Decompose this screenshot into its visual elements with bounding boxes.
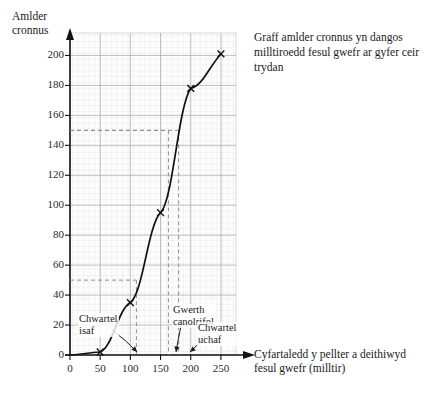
x-axis-arrow bbox=[243, 351, 255, 359]
x-tick-label: 150 bbox=[146, 362, 176, 374]
x-tick-label: 50 bbox=[85, 362, 115, 374]
x-tick-label: 0 bbox=[55, 362, 85, 374]
y-tick-label: 60 bbox=[20, 258, 64, 270]
chart-page: Amlder cronnus Graff amlder cronnus yn d… bbox=[0, 0, 428, 404]
y-tick-label: 140 bbox=[20, 138, 64, 150]
x-tick-label: 250 bbox=[206, 362, 236, 374]
y-tick-label: 180 bbox=[20, 78, 64, 90]
y-tick-label: 0 bbox=[20, 348, 64, 360]
y-tick-label: 160 bbox=[20, 108, 64, 120]
y-tick-label: 20 bbox=[20, 318, 64, 330]
y-tick-label: 80 bbox=[20, 228, 64, 240]
x-tick-label: 200 bbox=[176, 362, 206, 374]
y-tick-label: 200 bbox=[20, 48, 64, 60]
y-tick-label: 40 bbox=[20, 288, 64, 300]
annotation-upper-quartile: Chwartel uchaf bbox=[197, 322, 238, 346]
y-tick-label: 100 bbox=[20, 198, 64, 210]
y-tick-label: 120 bbox=[20, 168, 64, 180]
x-tick-label: 100 bbox=[115, 362, 145, 374]
annotation-lower-quartile: Chwartel isaf bbox=[78, 313, 119, 337]
